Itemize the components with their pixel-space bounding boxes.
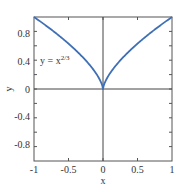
chart-canvas: 0.8 0.4 0 -0.4 -0.8 -1 -0.5 0 0.5 1 x y …	[0, 0, 182, 192]
curve-annotation: y = x2/3	[40, 54, 70, 66]
y-tick-label: 0.4	[18, 56, 31, 67]
x-tick-label: -1	[30, 164, 38, 175]
y-tick-label: 0.8	[18, 28, 31, 39]
y-tick-label: -0.8	[14, 139, 30, 150]
annotation-base: y = x	[40, 55, 61, 66]
y-tick-label: -0.4	[14, 111, 30, 122]
x-tick-label: 1	[170, 164, 175, 175]
x-tick-label: 0.5	[131, 164, 144, 175]
x-axis-label: x	[101, 175, 106, 186]
annotation-superscript: 2/3	[61, 54, 70, 62]
y-axis-label: y	[3, 87, 14, 92]
x-tick-label: 0	[101, 164, 106, 175]
x-tick-label: -0.5	[61, 164, 77, 175]
y-tick-label: 0	[25, 84, 30, 95]
